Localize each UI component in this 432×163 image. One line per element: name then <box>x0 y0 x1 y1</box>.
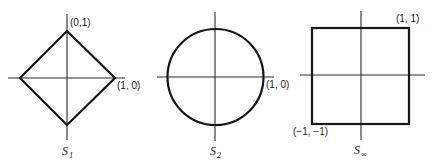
label-0-1: (0,1) <box>70 17 91 28</box>
label-1-0: (1, 0) <box>266 79 289 90</box>
unit-balls-diagram: (0,1) (1, 0) S 1 (1, 0) S 2 (1, 1) (−1, … <box>0 0 432 163</box>
caption-s2-sub: 2 <box>217 151 221 160</box>
label-1-0: (1, 0) <box>117 80 140 91</box>
label-1-1: (1, 1) <box>396 13 419 24</box>
caption-s2: S <box>210 144 216 158</box>
caption-s1-sub: 1 <box>69 151 73 160</box>
label-neg1-neg1: (−1, −1) <box>293 126 328 137</box>
caption-s1: S <box>62 144 68 158</box>
panel-s2: (1, 0) S 2 <box>157 12 289 160</box>
caption-sinf: S <box>354 143 360 157</box>
panel-s1: (0,1) (1, 0) S 1 <box>8 14 140 160</box>
panel-sinf: (1, 1) (−1, −1) S ∞ <box>293 11 425 159</box>
caption-sinf-sub: ∞ <box>361 150 367 159</box>
